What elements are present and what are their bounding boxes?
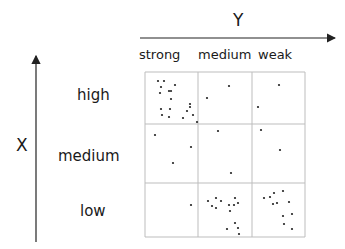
- data-point: [189, 103, 191, 105]
- data-point: [174, 84, 176, 86]
- data-point: [269, 196, 271, 198]
- data-point: [217, 130, 219, 132]
- data-point: [228, 204, 230, 206]
- data-point: [172, 162, 174, 164]
- data-point: [260, 129, 262, 131]
- data-point: [160, 86, 162, 88]
- y-axis-title: Y: [233, 10, 243, 30]
- data-points: [154, 80, 293, 235]
- data-point: [234, 222, 236, 224]
- data-point: [192, 114, 194, 116]
- data-point: [278, 84, 280, 86]
- data-point: [211, 205, 213, 207]
- data-point: [226, 228, 228, 230]
- data-point: [154, 134, 156, 136]
- data-point: [282, 215, 284, 217]
- data-point: [288, 201, 290, 203]
- data-point: [168, 116, 170, 118]
- data-point: [163, 80, 165, 82]
- data-point: [238, 233, 240, 235]
- data-point: [189, 106, 191, 108]
- data-point: [282, 190, 284, 192]
- data-point: [273, 192, 275, 194]
- column-label-strong: strong: [139, 47, 180, 62]
- diagram-canvas: [0, 0, 345, 249]
- data-point: [279, 149, 281, 151]
- row-label-high: high: [77, 86, 110, 104]
- data-point: [159, 92, 161, 94]
- data-point: [220, 200, 222, 202]
- data-point: [230, 172, 232, 174]
- data-point: [206, 97, 208, 99]
- data-point: [234, 197, 236, 199]
- data-point: [283, 223, 285, 225]
- data-point: [190, 204, 192, 206]
- data-point: [170, 98, 172, 100]
- row-label-medium: medium: [58, 147, 120, 165]
- data-point: [190, 146, 192, 148]
- data-point: [182, 117, 184, 119]
- data-point: [215, 207, 217, 209]
- row-label-low: low: [80, 202, 106, 220]
- data-point: [276, 202, 278, 204]
- data-point: [237, 227, 239, 229]
- x-axis-title: X: [16, 135, 28, 155]
- data-point: [196, 121, 198, 123]
- data-point: [228, 85, 230, 87]
- data-point: [161, 114, 163, 116]
- column-label-weak: weak: [258, 47, 292, 62]
- data-point: [215, 197, 217, 199]
- data-point: [233, 204, 235, 206]
- data-point: [160, 108, 162, 110]
- data-point: [157, 80, 159, 82]
- column-label-medium: medium: [198, 47, 251, 62]
- data-point: [272, 203, 274, 205]
- data-point: [291, 213, 293, 215]
- data-point: [237, 202, 239, 204]
- data-point: [168, 90, 170, 92]
- data-point: [291, 228, 293, 230]
- data-point: [170, 90, 172, 92]
- data-point: [186, 110, 188, 112]
- data-point: [207, 200, 209, 202]
- grid-lines: [145, 72, 305, 237]
- data-point: [229, 210, 231, 212]
- data-point: [169, 108, 171, 110]
- data-point: [263, 197, 265, 199]
- data-point: [257, 106, 259, 108]
